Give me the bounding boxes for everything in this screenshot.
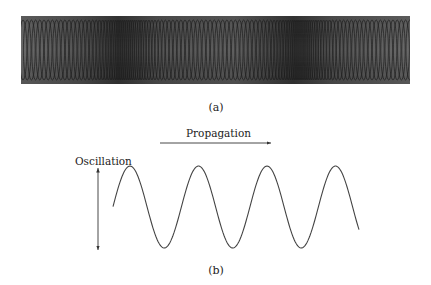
propagation-label: Propagation: [186, 127, 251, 139]
oscillation-label: Oscillation: [75, 155, 132, 167]
sine-wave: [113, 166, 359, 248]
wave-diagram: [0, 0, 431, 285]
caption-b: (b): [208, 264, 224, 277]
